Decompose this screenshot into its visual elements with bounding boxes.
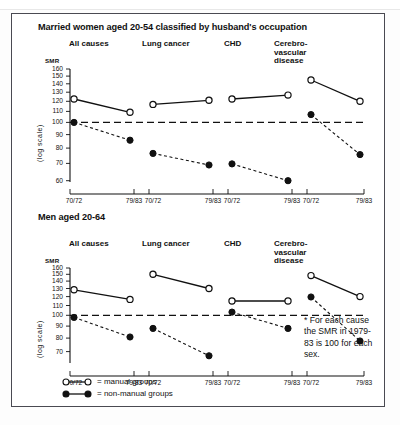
xtick-women-1: 70/72 (58, 197, 90, 204)
ytick-men-140: 140 (48, 277, 63, 284)
ytick-women-110: 110 (48, 107, 63, 114)
ytick-men-120: 120 (48, 293, 63, 300)
xtick-women-3: 70/72 (137, 197, 169, 204)
xtick-women-5: 70/72 (216, 197, 248, 204)
xtick-men-7: 70/72 (295, 379, 327, 386)
ytick-men-130: 130 (48, 285, 63, 292)
ytick-women-80: 80 (48, 144, 63, 151)
xtick-women-7: 70/72 (295, 197, 327, 204)
footnote-text: * For each cause the SMR in 1979-83 is 1… (304, 315, 376, 361)
ytick-men-70: 70 (48, 348, 63, 355)
legend-marker-non-manual (62, 389, 94, 399)
xtick-men-5: 70/72 (216, 379, 248, 386)
ytick-men-80: 80 (48, 334, 63, 341)
ytick-men-90: 90 (48, 322, 63, 329)
ytick-men-100: 100 (48, 311, 63, 318)
ytick-women-140: 140 (48, 80, 63, 87)
legend-label-manual: = manual groups (97, 377, 157, 386)
legend-label-non-manual: = non-manual groups (97, 389, 173, 398)
ytick-women-160: 160 (48, 65, 63, 72)
legend-marker-manual (62, 377, 94, 387)
ytick-women-100: 100 (48, 118, 63, 125)
ytick-women-130: 130 (48, 88, 63, 95)
ytick-women-70: 70 (48, 159, 63, 166)
ytick-men-110: 110 (48, 302, 63, 309)
ytick-men-150: 150 (48, 270, 63, 277)
ytick-women-150: 150 (48, 72, 63, 79)
figure-frame: Married women aged 20-54 classified by h… (11, 13, 385, 407)
ytick-women-120: 120 (48, 97, 63, 104)
page-canvas: Married women aged 20-54 classified by h… (0, 0, 400, 425)
plot-area-women (12, 14, 386, 210)
chart-panel-women: Married women aged 20-54 classified by h… (12, 14, 386, 210)
xtick-women-8: 79/83 (348, 197, 380, 204)
ytick-women-90: 90 (48, 131, 63, 138)
xtick-men-8: 79/83 (348, 379, 380, 386)
page-top-strip (0, 0, 400, 10)
ytick-women-60: 60 (48, 177, 63, 184)
